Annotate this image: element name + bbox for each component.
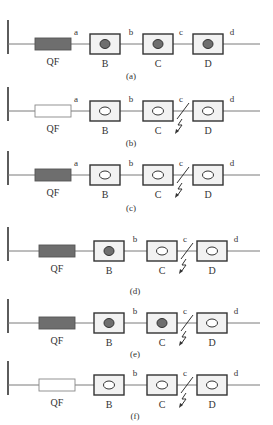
panel-caption: (a) <box>126 71 136 81</box>
switch-open-icon <box>153 171 164 179</box>
lightning-fault-icon <box>177 119 182 132</box>
diagram-canvas: QFBCDabcd(a)QFBCDabcd(b)QFBCDabcd(c)QFBC… <box>0 0 273 425</box>
switch-open-icon <box>157 381 168 389</box>
point-label-b: b <box>133 306 138 316</box>
lightning-fault-icon <box>181 259 186 272</box>
switch-open-icon <box>207 381 218 389</box>
panel-caption: (e) <box>130 349 140 359</box>
lightning-fault-icon <box>177 183 182 196</box>
switch-label-b: B <box>106 399 113 410</box>
breaker-open-icon <box>39 379 75 391</box>
switch-label-d: D <box>208 337 215 348</box>
switch-label-b: B <box>102 189 109 200</box>
switch-label-c: C <box>159 337 166 348</box>
switch-label-b: B <box>106 265 113 276</box>
switch-label-c: C <box>159 265 166 276</box>
point-label-b: b <box>133 368 138 378</box>
switch-label-b: B <box>102 58 109 69</box>
breaker-label: QF <box>51 397 64 408</box>
switch-label-b: B <box>106 337 113 348</box>
point-label-d: d <box>230 27 235 37</box>
switch-label-c: C <box>159 399 166 410</box>
point-label-a: a <box>74 158 78 168</box>
panel-e: QFBCDbcd(e) <box>8 299 260 359</box>
switch-open-icon <box>207 319 218 327</box>
fault-isolation-diagram: QFBCDabcd(a)QFBCDabcd(b)QFBCDabcd(c)QFBC… <box>0 0 273 425</box>
switch-open-icon <box>203 107 214 115</box>
switch-label-d: D <box>204 58 211 69</box>
point-label-d: d <box>230 94 235 104</box>
switch-open-icon <box>104 381 115 389</box>
point-label-c: c <box>179 27 183 37</box>
point-label-b: b <box>129 94 134 104</box>
switch-open-icon <box>157 247 168 255</box>
switch-open-icon <box>207 247 218 255</box>
breaker-closed-icon <box>35 38 71 50</box>
point-label-c: c <box>183 368 187 378</box>
breaker-label: QF <box>51 263 64 274</box>
point-label-a: a <box>74 27 78 37</box>
lightning-fault-icon <box>181 393 186 406</box>
panel-d: QFBCDbcd(d) <box>8 227 260 296</box>
breaker-label: QF <box>47 56 60 67</box>
switch-label-d: D <box>208 399 215 410</box>
point-label-a: a <box>74 94 78 104</box>
point-label-c: c <box>179 94 183 104</box>
switch-closed-icon <box>153 40 163 49</box>
switch-closed-icon <box>203 40 213 49</box>
switch-label-d: D <box>208 265 215 276</box>
breaker-label: QF <box>47 123 60 134</box>
panel-b: QFBCDabcd(b) <box>8 87 260 148</box>
switch-label-d: D <box>204 125 211 136</box>
point-label-d: d <box>234 306 239 316</box>
switch-closed-icon <box>104 319 114 328</box>
lightning-fault-icon <box>181 331 186 344</box>
breaker-label: QF <box>51 335 64 346</box>
switch-label-c: C <box>155 58 162 69</box>
switch-open-icon <box>100 107 111 115</box>
panel-caption: (b) <box>126 138 137 148</box>
switch-label-c: C <box>155 189 162 200</box>
point-label-c: c <box>183 234 187 244</box>
panel-caption: (c) <box>126 203 136 213</box>
panel-caption: (f) <box>131 411 140 421</box>
breaker-closed-icon <box>35 169 71 181</box>
switch-label-d: D <box>204 189 211 200</box>
point-label-b: b <box>129 27 134 37</box>
breaker-closed-icon <box>39 317 75 329</box>
point-label-d: d <box>230 158 235 168</box>
switch-label-b: B <box>102 125 109 136</box>
point-label-c: c <box>183 306 187 316</box>
breaker-label: QF <box>47 187 60 198</box>
point-label-b: b <box>133 234 138 244</box>
switch-open-icon <box>100 171 111 179</box>
switch-closed-icon <box>100 40 110 49</box>
panel-f: QFBCDbcd(f) <box>8 361 260 421</box>
switch-label-c: C <box>155 125 162 136</box>
switch-open-icon <box>153 107 164 115</box>
point-label-d: d <box>234 234 239 244</box>
breaker-closed-icon <box>39 245 75 257</box>
panel-c: QFBCDabcd(c) <box>8 151 260 213</box>
switch-open-icon <box>203 171 214 179</box>
breaker-open-icon <box>35 105 71 117</box>
point-label-b: b <box>129 158 134 168</box>
point-label-c: c <box>179 158 183 168</box>
point-label-d: d <box>234 368 239 378</box>
panel-caption: (d) <box>130 286 141 296</box>
switch-closed-icon <box>104 247 114 256</box>
panel-a: QFBCDabcd(a) <box>8 20 260 81</box>
switch-closed-icon <box>157 319 167 328</box>
